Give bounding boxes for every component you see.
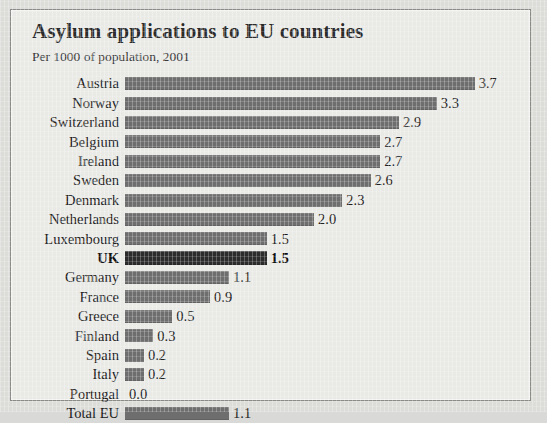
bar-value-label: 1.1 <box>229 406 251 421</box>
bar-value-label: 1.1 <box>229 270 251 285</box>
bar-value-label: 2.0 <box>314 212 336 227</box>
bar <box>125 368 144 381</box>
bar-category-label: Spain <box>11 348 125 363</box>
table-row: Denmark2.3 <box>11 190 530 209</box>
bar-track: 1.1 <box>125 268 530 287</box>
bar-category-label: Sweden <box>11 173 125 188</box>
bar-category-label: France <box>11 290 125 305</box>
bar <box>125 174 371 187</box>
table-row: Netherlands2.0 <box>11 210 530 229</box>
bar-track: 1.5 <box>125 229 530 248</box>
bar-category-label: Switzerland <box>11 115 125 130</box>
bar <box>125 310 172 323</box>
bar <box>125 232 267 245</box>
bar-track: 2.0 <box>125 210 530 229</box>
bar <box>125 271 229 284</box>
table-row: Portugal0.0 <box>11 384 530 403</box>
bar-category-label: Belgium <box>11 135 125 150</box>
bar-value-label: 3.3 <box>437 96 459 111</box>
bar-value-label: 0.3 <box>153 329 175 344</box>
bar-category-label: Italy <box>11 367 125 382</box>
bar-value-label: 0.2 <box>144 367 166 382</box>
table-row: Finland0.3 <box>11 326 530 345</box>
bar-value-label: 1.5 <box>267 232 289 247</box>
bar-track: 2.7 <box>125 132 530 151</box>
bar-track: 1.5 <box>125 249 530 268</box>
bar-track: 0.0 <box>125 384 530 403</box>
bar-category-label: Portugal <box>11 387 125 402</box>
bar-value-label: 2.7 <box>380 135 402 150</box>
table-row: Spain0.2 <box>11 345 530 364</box>
bar-track: 0.2 <box>125 365 530 384</box>
bar-track: 0.5 <box>125 307 530 326</box>
bar-track: 1.1 <box>125 404 530 423</box>
bar-category-label: Total EU <box>11 406 125 421</box>
table-row: Norway3.3 <box>11 93 530 112</box>
bar-track: 2.6 <box>125 171 530 190</box>
bar <box>125 251 267 265</box>
bar-category-label: Ireland <box>11 154 125 169</box>
bar <box>125 135 380 148</box>
table-row: Germany1.1 <box>11 268 530 287</box>
chart-title: Asylum applications to EU countries <box>32 20 520 44</box>
bar-track: 0.3 <box>125 326 530 345</box>
table-row: UK1.5 <box>11 249 530 268</box>
table-row: Switzerland2.9 <box>11 113 530 132</box>
bar-value-label: 0.9 <box>210 290 232 305</box>
bar <box>125 290 210 303</box>
bar <box>125 77 475 90</box>
bar-category-label: Denmark <box>11 193 125 208</box>
bar-value-label: 2.7 <box>380 154 402 169</box>
table-row: Greece0.5 <box>11 307 530 326</box>
table-row: France0.9 <box>11 287 530 306</box>
bar <box>125 213 314 226</box>
bar-category-label: Germany <box>11 270 125 285</box>
bar-value-label: 2.9 <box>399 115 421 130</box>
bar-track: 0.2 <box>125 345 530 364</box>
bar-value-label: 1.5 <box>267 251 289 266</box>
table-row: Ireland2.7 <box>11 152 530 171</box>
bar-value-label: 0.2 <box>144 348 166 363</box>
bar-chart-plot-area: Austria3.7Norway3.3Switzerland2.9Belgium… <box>11 74 530 396</box>
bar-category-label: Netherlands <box>11 212 125 227</box>
bar-category-label: Luxembourg <box>11 232 125 247</box>
table-row: Belgium2.7 <box>11 132 530 151</box>
bar-track: 0.9 <box>125 287 530 306</box>
bar-value-label: 2.3 <box>342 193 364 208</box>
bar-category-label: Norway <box>11 96 125 111</box>
bar-value-label: 2.6 <box>371 173 393 188</box>
bar <box>125 329 153 342</box>
bar-track: 2.9 <box>125 113 530 132</box>
table-row: Austria3.7 <box>11 74 530 93</box>
chart-heading: Asylum applications to EU countries Per … <box>32 20 520 64</box>
chart-subtitle: Per 1000 of population, 2001 <box>32 49 520 65</box>
bar-value-label: 3.7 <box>475 76 497 91</box>
table-row: Italy0.2 <box>11 365 530 384</box>
bar-category-label: UK <box>11 251 125 266</box>
bar <box>125 349 144 362</box>
bar <box>125 97 437 110</box>
bar <box>125 116 399 129</box>
table-row: Sweden2.6 <box>11 171 530 190</box>
chart-frame: Asylum applications to EU countries Per … <box>10 9 531 401</box>
bar <box>125 194 342 207</box>
bar-track: 3.7 <box>125 74 530 93</box>
bar-track: 2.3 <box>125 190 530 209</box>
bar-value-label: 0.5 <box>172 309 194 324</box>
bar <box>125 407 229 420</box>
bar-category-label: Finland <box>11 329 125 344</box>
bar-category-label: Greece <box>11 309 125 324</box>
bar-track: 3.3 <box>125 93 530 112</box>
bar <box>125 155 380 168</box>
bar-track: 2.7 <box>125 152 530 171</box>
table-row: Total EU1.1 <box>11 404 530 423</box>
bar-category-label: Austria <box>11 76 125 91</box>
table-row: Luxembourg1.5 <box>11 229 530 248</box>
bar-value-label: 0.0 <box>125 387 147 402</box>
